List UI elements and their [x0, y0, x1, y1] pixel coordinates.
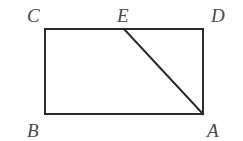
segment-EA-diagonal — [124, 29, 203, 114]
vertex-label-E: E — [117, 6, 129, 25]
segments-group — [45, 29, 203, 114]
vertex-label-B: B — [27, 121, 39, 140]
vertex-label-A: A — [207, 121, 219, 140]
geometry-figure: C E D B A — [0, 0, 243, 141]
vertex-label-D: D — [211, 6, 225, 25]
vertex-label-C: C — [27, 6, 40, 25]
